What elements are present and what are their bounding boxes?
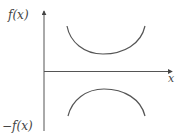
curve-neg-f-x — [68, 89, 145, 116]
label-neg-f-x: −f(x) — [2, 119, 33, 133]
label-f-x: f(x) — [7, 8, 29, 22]
curve-f-x — [67, 26, 145, 54]
label-x-axis: x — [168, 72, 175, 85]
diagram-canvas: f(x) −f(x) x — [0, 0, 182, 133]
